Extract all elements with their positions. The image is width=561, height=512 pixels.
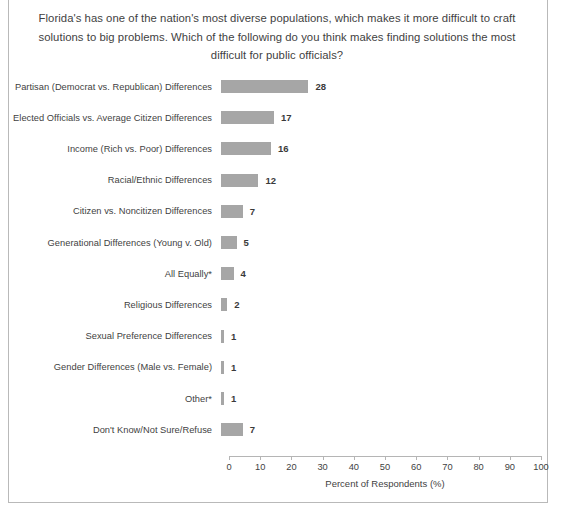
bar-row: Income (Rich vs. Poor) Differences 16 xyxy=(9,133,549,164)
bar-value-label: 1 xyxy=(231,362,236,373)
x-axis-tick xyxy=(541,456,542,460)
category-label: Racial/Ethnic Differences xyxy=(9,175,221,185)
x-axis-tick xyxy=(323,456,324,460)
category-label: Other* xyxy=(9,394,221,404)
bar-container: 7 xyxy=(221,414,549,445)
bar[interactable] xyxy=(221,142,271,155)
bar-row: All Equally* 4 xyxy=(9,258,549,289)
bar-container: 5 xyxy=(221,227,549,258)
bar-value-label: 4 xyxy=(241,268,246,279)
bar-row: Racial/Ethnic Differences 12 xyxy=(9,165,549,196)
bar-value-label: 28 xyxy=(315,81,326,92)
x-axis-tick-label: 30 xyxy=(317,462,327,472)
category-label: Elected Officials vs. Average Citizen Di… xyxy=(9,113,221,123)
category-label: Don't Know/Not Sure/Refuse xyxy=(9,425,221,435)
bar-row: Don't Know/Not Sure/Refuse 7 xyxy=(9,414,549,445)
bar[interactable] xyxy=(221,111,274,124)
bar-row: Sexual Preference Differences 1 xyxy=(9,321,549,352)
x-axis-tick xyxy=(229,456,230,460)
x-axis-tick-label: 60 xyxy=(411,462,421,472)
bar-container: 28 xyxy=(221,71,549,102)
category-label: Gender Differences (Male vs. Female) xyxy=(9,362,221,372)
x-axis-tick xyxy=(354,456,355,460)
bar[interactable] xyxy=(221,80,308,93)
chart-title: Florida's has one of the nation's most d… xyxy=(37,9,517,65)
x-axis-tick-label: 50 xyxy=(380,462,390,472)
x-axis-tick xyxy=(291,456,292,460)
x-axis-tick-label: 0 xyxy=(226,462,231,472)
x-axis-tick-label: 80 xyxy=(473,462,483,472)
bar-container: 2 xyxy=(221,289,549,320)
bar-row: Other* 1 xyxy=(9,383,549,414)
category-label: Income (Rich vs. Poor) Differences xyxy=(9,144,221,154)
bar-container: 16 xyxy=(221,133,549,164)
x-axis-tick xyxy=(510,456,511,460)
category-label: Citizen vs. Noncitizen Differences xyxy=(9,206,221,216)
x-axis-tick-label: 40 xyxy=(349,462,359,472)
plot-area: Partisan (Democrat vs. Republican) Diffe… xyxy=(9,71,549,459)
bar-row: Citizen vs. Noncitizen Differences 7 xyxy=(9,196,549,227)
bar-row: Elected Officials vs. Average Citizen Di… xyxy=(9,102,549,133)
bar-container: 17 xyxy=(221,102,549,133)
bar-row: Partisan (Democrat vs. Republican) Diffe… xyxy=(9,71,549,102)
x-axis-tick-label: 20 xyxy=(286,462,296,472)
bar-container: 1 xyxy=(221,383,549,414)
bar-container: 4 xyxy=(221,258,549,289)
x-axis: 0 10 20 30 40 50 60 70 80 90 100 Percent… xyxy=(229,456,549,502)
category-label: All Equally* xyxy=(9,269,221,279)
bar-value-label: 7 xyxy=(250,424,255,435)
bar[interactable] xyxy=(221,392,224,405)
chart-figure: Florida's has one of the nation's most d… xyxy=(8,0,548,503)
bar-value-label: 1 xyxy=(231,331,236,342)
x-axis-tick xyxy=(416,456,417,460)
x-axis-tick-label: 70 xyxy=(442,462,452,472)
category-label: Partisan (Democrat vs. Republican) Diffe… xyxy=(9,82,221,92)
x-axis-tick xyxy=(260,456,261,460)
bar[interactable] xyxy=(221,236,237,249)
x-axis-tick-label: 10 xyxy=(255,462,265,472)
bar[interactable] xyxy=(221,361,224,374)
bar[interactable] xyxy=(221,267,234,280)
x-axis-tick-label: 90 xyxy=(505,462,515,472)
bar-value-label: 7 xyxy=(250,206,255,217)
bar-row: Gender Differences (Male vs. Female) 1 xyxy=(9,352,549,383)
x-axis-tick xyxy=(479,456,480,460)
x-axis-tick-label: 100 xyxy=(533,462,549,472)
category-label: Generational Differences (Young v. Old) xyxy=(9,238,221,248)
bar[interactable] xyxy=(221,174,258,187)
bar-container: 1 xyxy=(221,352,549,383)
x-axis-title: Percent of Respondents (%) xyxy=(229,478,541,489)
x-axis-tick xyxy=(385,456,386,460)
bar-value-label: 12 xyxy=(265,175,276,186)
bar[interactable] xyxy=(221,330,224,343)
bar-value-label: 16 xyxy=(278,143,289,154)
bar[interactable] xyxy=(221,205,243,218)
bar-value-label: 5 xyxy=(244,237,249,248)
bar-container: 12 xyxy=(221,165,549,196)
x-axis-tick xyxy=(447,456,448,460)
bar-value-label: 1 xyxy=(231,393,236,404)
bar-value-label: 2 xyxy=(234,299,239,310)
bar[interactable] xyxy=(221,298,227,311)
bar-value-label: 17 xyxy=(281,112,292,123)
bar-row: Generational Differences (Young v. Old) … xyxy=(9,227,549,258)
bar-container: 7 xyxy=(221,196,549,227)
bar-container: 1 xyxy=(221,321,549,352)
category-label: Sexual Preference Differences xyxy=(9,331,221,341)
bar-row: Religious Differences 2 xyxy=(9,289,549,320)
category-label: Religious Differences xyxy=(9,300,221,310)
bar[interactable] xyxy=(221,423,243,436)
